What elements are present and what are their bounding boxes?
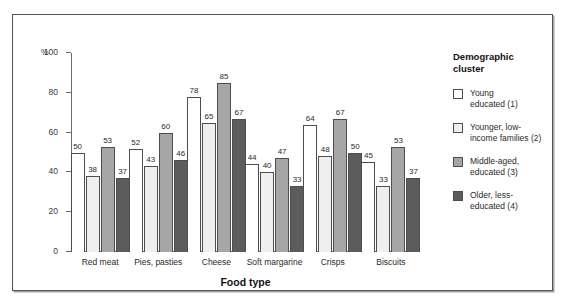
bar	[187, 97, 201, 252]
plot-area: % 020406080100 50385337Red meat52436046P…	[71, 53, 420, 252]
bar-item: 52	[129, 53, 143, 252]
bar	[318, 156, 332, 252]
bar	[391, 147, 405, 252]
bar-value-label: 53	[394, 137, 403, 145]
bar	[406, 178, 420, 252]
bar	[116, 178, 130, 252]
legend-item-label: Younger, low-income families (2)	[470, 122, 541, 145]
bar-group: 52436046Pies, pasties	[129, 53, 187, 252]
legend-item-label-line-1: Middle-aged,	[470, 156, 519, 167]
bar-item: 78	[187, 53, 201, 252]
bar-value-label: 50	[351, 143, 360, 151]
bar-groups: 50385337Red meat52436046Pies, pasties786…	[71, 53, 420, 252]
bar	[232, 119, 246, 252]
x-axis-title: Food type	[71, 277, 420, 288]
bar-item: 33	[376, 53, 390, 252]
legend-swatch	[453, 191, 463, 201]
bar-value-label: 65	[204, 113, 213, 121]
legend-item-label-line-1: Younger, low-	[470, 122, 541, 133]
bar-value-label: 33	[379, 176, 388, 184]
bar	[144, 166, 158, 252]
legend-item-label-line-2: income families (2)	[470, 133, 541, 144]
bar-value-label: 47	[278, 148, 287, 156]
legend-title: Demographic cluster	[453, 51, 559, 76]
bar	[174, 160, 188, 252]
bar	[71, 153, 85, 253]
bar-item: 37	[406, 53, 420, 252]
bar-item: 60	[159, 53, 173, 252]
legend-swatch	[453, 157, 463, 167]
bar-value-label: 40	[263, 162, 272, 170]
bar	[275, 158, 289, 252]
bar	[303, 125, 317, 252]
chart-frame: % 020406080100 50385337Red meat52436046P…	[12, 14, 553, 291]
bar-value-label: 46	[176, 150, 185, 158]
bar-value-label: 78	[189, 87, 198, 95]
bar	[101, 147, 115, 252]
legend-item[interactable]: Older, less-educated (4)	[453, 190, 559, 213]
bar	[86, 176, 100, 252]
bar-value-label: 45	[364, 152, 373, 160]
figure: % 020406080100 50385337Red meat52436046P…	[0, 0, 566, 308]
bar	[290, 186, 304, 252]
bar	[202, 123, 216, 252]
y-tick-label: 100	[44, 48, 58, 57]
legend-item[interactable]: Youngeducated (1)	[453, 88, 559, 111]
bar	[333, 119, 347, 252]
x-tick-label: Cheese	[202, 258, 231, 267]
bar-value-label: 52	[131, 139, 140, 147]
bar-item: 67	[232, 53, 246, 252]
bar-value-label: 85	[219, 73, 228, 81]
bar-item: 64	[303, 53, 317, 252]
legend-title-line-2: cluster	[453, 63, 559, 75]
bar-value-label: 48	[321, 146, 330, 154]
bar-group: 78658567Cheese	[187, 53, 245, 252]
bar	[245, 164, 259, 252]
bar-item: 38	[86, 53, 100, 252]
y-tick-label: 20	[49, 207, 58, 216]
bar-item: 65	[202, 53, 216, 252]
bar-item: 44	[245, 53, 259, 252]
bar-group: 45335337Biscuits	[362, 53, 420, 252]
y-tick-label: 0	[53, 247, 58, 256]
legend-item-label: Middle-aged,educated (3)	[470, 156, 519, 179]
bar-value-label: 38	[88, 166, 97, 174]
legend-item-label: Older, less-educated (4)	[470, 190, 518, 213]
bar	[361, 162, 375, 252]
legend-item-label-line-2: educated (4)	[470, 201, 518, 212]
legend-swatch	[453, 123, 463, 133]
legend-item-label-line-2: educated (1)	[470, 99, 518, 110]
x-tick-label: Pies, pasties	[134, 258, 182, 267]
bar-item: 67	[333, 53, 347, 252]
y-tick-label: 40	[49, 167, 58, 176]
bar	[159, 133, 173, 252]
bar-item: 53	[101, 53, 115, 252]
x-tick-label: Soft margarine	[247, 258, 303, 267]
y-tick-label: 60	[49, 127, 58, 136]
bar-value-label: 44	[248, 154, 257, 162]
bar-item: 43	[144, 53, 158, 252]
bar	[217, 83, 231, 252]
legend-item-label-line-1: Older, less-	[470, 190, 518, 201]
bar-item: 53	[391, 53, 405, 252]
bar-value-label: 64	[306, 115, 315, 123]
bar-item: 45	[361, 53, 375, 252]
legend-item-label-line-2: educated (3)	[470, 167, 519, 178]
bar-item: 46	[174, 53, 188, 252]
legend-item[interactable]: Middle-aged,educated (3)	[453, 156, 559, 179]
bar-value-label: 50	[73, 143, 82, 151]
bar	[129, 149, 143, 252]
legend: Demographic cluster Youngeducated (1)You…	[453, 51, 559, 223]
bar-item: 40	[260, 53, 274, 252]
bar-value-label: 37	[118, 168, 127, 176]
bar	[348, 153, 362, 253]
bar-item: 37	[116, 53, 130, 252]
x-tick-label: Biscuits	[376, 258, 405, 267]
bar-item: 48	[318, 53, 332, 252]
bar-group: 44404733Soft margarine	[246, 53, 304, 252]
legend-swatch	[453, 89, 463, 99]
bar-item: 33	[290, 53, 304, 252]
bar-value-label: 53	[103, 137, 112, 145]
bar-item: 50	[348, 53, 362, 252]
legend-item[interactable]: Younger, low-income families (2)	[453, 122, 559, 145]
